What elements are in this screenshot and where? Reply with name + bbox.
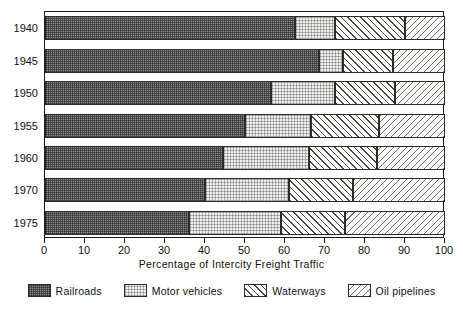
bar-segment-railroads [45, 114, 245, 138]
bar-segment-oil [353, 178, 445, 202]
legend-swatch-oil [348, 284, 371, 297]
bar-segment-waterways [343, 49, 393, 73]
plot-area: 1940194519501955196019701975 [44, 11, 444, 238]
legend-label: Waterways [272, 285, 325, 297]
y-axis-tick-label: 1945 [0, 49, 38, 73]
bar-row: 1970 [45, 178, 443, 202]
bar-segment-oil [345, 211, 445, 235]
bar-row: 1950 [45, 81, 443, 105]
bar-segment-railroads [45, 178, 205, 202]
x-axis-tick-label: 50 [238, 244, 250, 256]
x-axis: 0102030405060708090100 [44, 238, 444, 260]
bar-segment-oil [379, 114, 445, 138]
x-axis-tick-label: 100 [435, 244, 453, 256]
y-axis-tick-label: 1970 [0, 178, 38, 202]
bar-segment-railroads [45, 211, 189, 235]
bar-segment-waterways [289, 178, 353, 202]
x-axis-tick-label: 70 [318, 244, 330, 256]
stacked-bar-chart: 1940194519501955196019701975 01020304050… [0, 0, 463, 320]
legend-swatch-waterways [244, 284, 267, 297]
bar-segment-waterways [311, 114, 379, 138]
x-axis-tick [164, 238, 165, 243]
bar-segment-motor [271, 81, 335, 105]
legend-item: Oil pipelines [348, 284, 436, 297]
x-axis-tick [284, 238, 285, 243]
bar-row: 1955 [45, 114, 443, 138]
x-axis-tick [444, 238, 445, 243]
bar-segment-oil [395, 81, 445, 105]
legend-swatch-railroads [28, 284, 51, 297]
bar-segment-railroads [45, 16, 295, 40]
legend-label: Motor vehicles [152, 285, 223, 297]
x-axis-tick [324, 238, 325, 243]
x-axis-tick [124, 238, 125, 243]
bar-segment-waterways [335, 16, 405, 40]
x-axis-tick [244, 238, 245, 243]
bar-segment-motor [205, 178, 289, 202]
bar-segment-railroads [45, 49, 319, 73]
bar-segment-motor [245, 114, 311, 138]
bar-segment-motor [223, 146, 309, 170]
bar-segment-motor [295, 16, 335, 40]
legend-item: Motor vehicles [124, 284, 223, 297]
x-axis-tick [364, 238, 365, 243]
bar-segment-waterways [335, 81, 395, 105]
legend-label: Railroads [56, 285, 102, 297]
x-axis-tick-label: 80 [358, 244, 370, 256]
x-axis-tick-label: 0 [41, 244, 47, 256]
legend-label: Oil pipelines [376, 285, 436, 297]
chart-legend: RailroadsMotor vehiclesWaterwaysOil pipe… [0, 284, 463, 297]
bar-segment-waterways [281, 211, 345, 235]
y-axis-tick-label: 1955 [0, 114, 38, 138]
legend-item: Railroads [28, 284, 102, 297]
y-axis-tick-label: 1940 [0, 16, 38, 40]
bar-segment-railroads [45, 146, 223, 170]
bar-row: 1945 [45, 49, 443, 73]
x-axis-tick [204, 238, 205, 243]
bar-row: 1960 [45, 146, 443, 170]
legend-item: Waterways [244, 284, 325, 297]
bar-row: 1940 [45, 16, 443, 40]
bar-row: 1975 [45, 211, 443, 235]
bar-segment-motor [189, 211, 281, 235]
bar-segment-motor [319, 49, 343, 73]
x-axis-title: Percentage of Intercity Freight Traffic [0, 258, 463, 270]
bar-segment-oil [405, 16, 445, 40]
x-axis-tick-label: 20 [118, 244, 130, 256]
x-axis-tick-label: 40 [198, 244, 210, 256]
y-axis-tick-label: 1975 [0, 211, 38, 235]
x-axis-tick [404, 238, 405, 243]
y-axis-tick-label: 1950 [0, 81, 38, 105]
x-axis-tick-label: 60 [278, 244, 290, 256]
x-axis-tick [84, 238, 85, 243]
bar-segment-waterways [309, 146, 377, 170]
legend-swatch-motor [124, 284, 147, 297]
bar-segment-oil [377, 146, 445, 170]
x-axis-tick-label: 30 [158, 244, 170, 256]
x-axis-tick-label: 10 [78, 244, 90, 256]
y-axis-tick-label: 1960 [0, 146, 38, 170]
x-axis-tick [44, 238, 45, 243]
bar-segment-oil [393, 49, 445, 73]
bar-segment-railroads [45, 81, 271, 105]
x-axis-tick-label: 90 [398, 244, 410, 256]
